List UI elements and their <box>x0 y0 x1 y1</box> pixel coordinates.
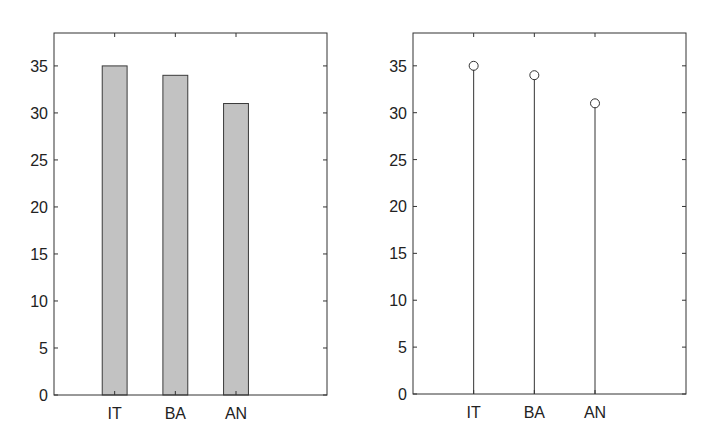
y-tick-label: 25 <box>30 152 48 169</box>
x-tick-label: BA <box>524 404 546 421</box>
y-tick-label: 5 <box>398 339 407 356</box>
y-tick-label: 0 <box>398 386 407 403</box>
bar-ba <box>163 75 188 395</box>
axes-box <box>413 33 686 394</box>
y-tick-label: 30 <box>389 105 407 122</box>
y-tick-label: 20 <box>389 198 407 215</box>
bar-chart-panel: 05101520253035ITBAAN <box>30 33 327 422</box>
x-tick-label: AN <box>584 404 606 421</box>
bar-it <box>102 66 127 395</box>
bar-an <box>224 104 249 395</box>
x-tick-label: IT <box>108 405 122 422</box>
x-tick-label: AN <box>225 405 247 422</box>
y-tick-label: 35 <box>30 58 48 75</box>
x-tick-label: BA <box>165 405 187 422</box>
y-tick-label: 5 <box>39 340 48 357</box>
y-tick-label: 10 <box>30 293 48 310</box>
axes-box <box>54 33 327 395</box>
y-tick-label: 35 <box>389 58 407 75</box>
figure: 05101520253035ITBAAN 05101520253035ITBAA… <box>0 0 714 444</box>
stem-marker-an <box>591 99 600 108</box>
stem-marker-ba <box>530 71 539 80</box>
stem-marker-it <box>469 61 478 70</box>
stem-chart-panel: 05101520253035ITBAAN <box>389 33 686 421</box>
y-tick-label: 20 <box>30 199 48 216</box>
y-tick-label: 15 <box>389 245 407 262</box>
y-tick-label: 10 <box>389 292 407 309</box>
y-tick-label: 15 <box>30 246 48 263</box>
y-tick-label: 0 <box>39 387 48 404</box>
x-tick-label: IT <box>467 404 481 421</box>
y-tick-label: 30 <box>30 105 48 122</box>
y-tick-label: 25 <box>389 152 407 169</box>
